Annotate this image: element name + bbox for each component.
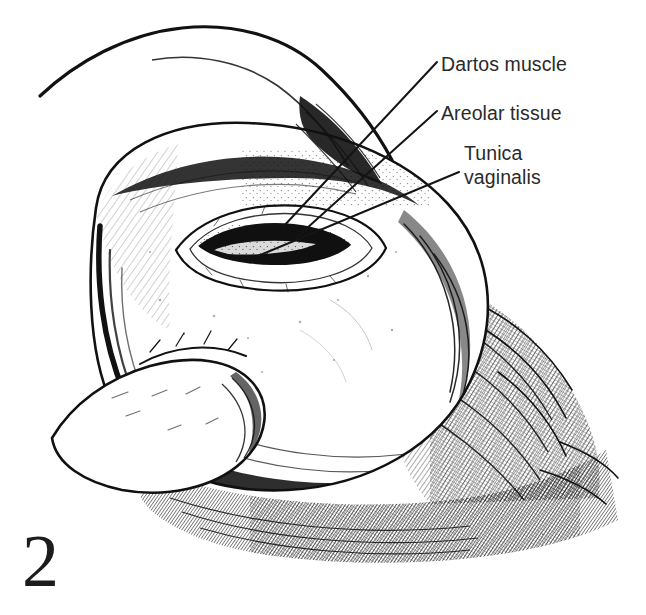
figure-page: Dartos muscle Areolar tissue Tunicavagin… (0, 0, 646, 615)
figure-number: 2 (22, 524, 59, 598)
label-tunica-vaginalis: Tunicavaginalis (464, 141, 541, 189)
label-tunica-line-1: Tunica (464, 142, 522, 164)
label-dartos-muscle: Dartos muscle (441, 52, 567, 76)
anatomical-illustration (0, 0, 646, 615)
label-areolar-tissue: Areolar tissue (441, 101, 562, 125)
label-tunica-line-2: vaginalis (464, 166, 541, 188)
